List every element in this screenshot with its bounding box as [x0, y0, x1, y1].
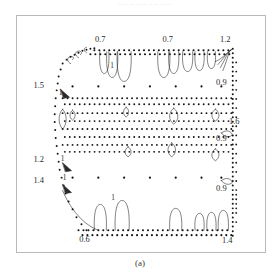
grid-dot: [191, 144, 193, 146]
grid-dot: [148, 136, 150, 138]
grid-dot: [57, 82, 59, 84]
grid-dot: [232, 157, 234, 159]
grid-dot: [89, 48, 91, 50]
grid-dot: [74, 54, 76, 56]
contour-level-label: 1.2: [220, 34, 231, 44]
grid-dot: [183, 49, 185, 51]
grid-dot: [55, 137, 57, 139]
grid-dot: [153, 49, 155, 51]
grid-dot: [121, 128, 123, 130]
grid-dot: [149, 53, 151, 55]
grid-dot: [232, 148, 234, 150]
grid-dot: [67, 128, 69, 130]
grid-dot: [210, 97, 212, 99]
grid-dot: [116, 144, 118, 146]
grid-dot: [133, 120, 135, 122]
grid-dot: [104, 120, 106, 122]
grid-dot: [121, 97, 123, 99]
grid-dot: [74, 120, 76, 122]
grid-dot: [123, 120, 125, 122]
grid-dot: [188, 103, 190, 105]
grid-dot: [94, 151, 96, 153]
grid-dot: [201, 97, 203, 99]
grid-dot: [96, 112, 98, 114]
contour-plot-surface: 0.70.71.21.511.211.410.91.60.90.9110.61.…: [17, 16, 265, 252]
grid-dot: [193, 49, 195, 51]
grid-dot: [89, 103, 91, 105]
grid-dot: [158, 103, 160, 105]
grid-dot: [98, 49, 100, 51]
grid-dot: [210, 144, 212, 146]
grid-dot: [151, 112, 153, 114]
grid-dot: [215, 234, 217, 236]
grid-dot: [62, 144, 64, 146]
grid-dot: [116, 97, 118, 99]
grid-dot: [175, 85, 177, 87]
grid-dot: [69, 151, 71, 153]
grid-dot: [123, 177, 125, 179]
grid-dot: [178, 120, 180, 122]
grid-dot: [79, 151, 81, 153]
grid-dot: [153, 151, 155, 153]
grid-dot: [79, 136, 81, 138]
grid-dot: [133, 136, 135, 138]
grid-dot: [171, 128, 173, 130]
grid-dot: [159, 53, 161, 55]
grid-dot: [121, 144, 123, 146]
grid-dot: [200, 234, 202, 236]
grid-dot: [162, 229, 164, 231]
grid-dot: [157, 229, 159, 231]
grid-dot: [72, 144, 74, 146]
grid-dot: [196, 112, 198, 114]
grid-dot: [142, 229, 144, 231]
grid-dot: [220, 97, 222, 99]
contour-level-label: 1.6: [229, 116, 240, 126]
grid-dot: [232, 107, 234, 109]
grid-dot: [186, 112, 188, 114]
grid-dot: [77, 229, 79, 231]
grid-dot: [193, 120, 195, 122]
grid-dot: [181, 234, 183, 236]
grid-dot: [213, 103, 215, 105]
grid-dot: [54, 105, 56, 107]
grid-dot: [193, 136, 195, 138]
grid-dot: [124, 53, 126, 55]
grid-dot: [203, 151, 205, 153]
grid-dot: [223, 151, 225, 153]
grid-dot: [156, 112, 158, 114]
grid-dot: [235, 194, 237, 196]
grid-dot: [116, 234, 118, 236]
grid-dot: [56, 89, 58, 91]
grid-dot: [164, 53, 166, 55]
grid-dot: [74, 103, 76, 105]
grid-dot: [232, 52, 234, 54]
grid-dot: [197, 49, 199, 51]
grid-dot: [106, 144, 108, 146]
grid-dot: [208, 120, 210, 122]
contour-path: [212, 149, 219, 161]
grid-dot: [232, 144, 234, 146]
grid-dot: [232, 112, 234, 114]
grid-dot: [101, 97, 103, 99]
grid-dot: [146, 112, 148, 114]
grid-dot: [84, 151, 86, 153]
grid-dot: [193, 103, 195, 105]
grid-dot: [163, 103, 165, 105]
grid-dot: [171, 234, 173, 236]
grid-dot: [67, 144, 69, 146]
grid-dot: [232, 89, 234, 91]
grid-dot: [141, 128, 143, 130]
grid-dot: [212, 49, 214, 51]
grid-dot: [148, 120, 150, 122]
grid-dot: [202, 49, 204, 51]
grid-dot: [64, 120, 66, 122]
grid-dot: [196, 144, 198, 146]
grid-dot: [136, 144, 138, 146]
grid-dot: [101, 144, 103, 146]
grid-dot: [91, 144, 93, 146]
grid-dot: [215, 112, 217, 114]
grid-dot: [77, 97, 79, 99]
contour-level-label: 0.7: [163, 34, 174, 44]
grid-dot: [131, 97, 133, 99]
grid-dot: [206, 128, 208, 130]
